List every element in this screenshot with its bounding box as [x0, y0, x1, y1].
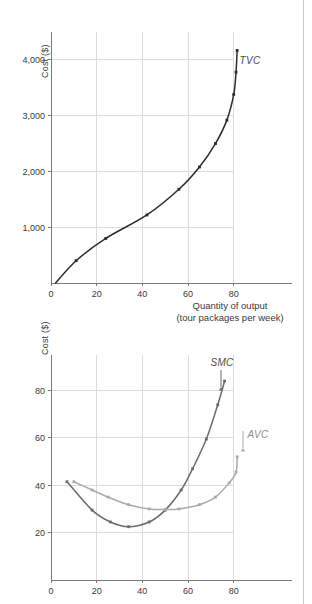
figure-page: Cost ($) 1,0002,0003,0004,000020406080TV…	[0, 0, 312, 604]
x-axis-label-tvc: Quantity of output (tour packages per we…	[150, 300, 310, 324]
svg-text:40: 40	[137, 586, 147, 596]
svg-text:20: 20	[92, 586, 102, 596]
svg-text:SMC: SMC	[210, 357, 234, 368]
svg-text:80: 80	[35, 386, 45, 396]
svg-text:4,000: 4,000	[22, 55, 45, 65]
svg-text:TVC: TVC	[240, 55, 261, 66]
svg-text:2,000: 2,000	[22, 167, 45, 177]
svg-text:80: 80	[229, 289, 239, 299]
svg-text:3,000: 3,000	[22, 111, 45, 121]
svg-text:20: 20	[35, 528, 45, 538]
x-axis-label-line2: (tour packages per week)	[150, 312, 310, 324]
svg-text:20: 20	[92, 289, 102, 299]
smc-avc-plot: 20406080020406080SMCAVC	[0, 325, 312, 604]
svg-text:0: 0	[48, 586, 53, 596]
x-axis-label-line1: Quantity of output	[150, 300, 310, 312]
svg-text:60: 60	[183, 289, 193, 299]
svg-text:1,000: 1,000	[22, 223, 45, 233]
svg-text:AVC: AVC	[247, 429, 269, 440]
svg-text:60: 60	[35, 433, 45, 443]
svg-text:80: 80	[229, 586, 239, 596]
svg-text:0: 0	[48, 289, 53, 299]
chart-panel-tvc: Cost ($) 1,0002,0003,0004,000020406080TV…	[0, 0, 312, 300]
svg-text:40: 40	[35, 481, 45, 491]
svg-text:40: 40	[137, 289, 147, 299]
svg-text:60: 60	[183, 586, 193, 596]
chart-panel-smc-avc: Cost ($) 20406080020406080SMCAVC	[0, 325, 312, 604]
tvc-plot: 1,0002,0003,0004,000020406080TVC	[0, 0, 312, 300]
